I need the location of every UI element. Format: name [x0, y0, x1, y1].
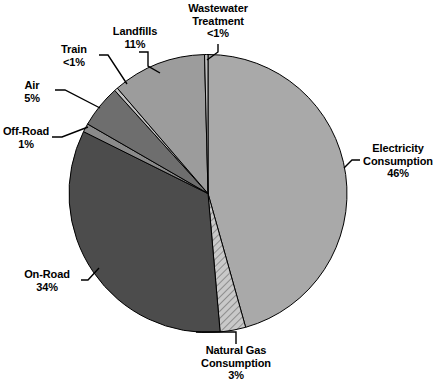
- pie-label-natural-gas-consumption-name2: Consumption: [186, 357, 286, 370]
- pie-label-off-road: Off-Road 1%: [0, 125, 52, 150]
- leader-line-natural-gas-consumption: [196, 332, 236, 344]
- pie-chart-figure: Wastewater Treatment <1% Landfills 11% T…: [0, 0, 439, 384]
- pie-label-air-name: Air: [10, 79, 54, 92]
- pie-label-landfills: Landfills 11%: [95, 25, 175, 50]
- pie-label-off-road-name: Off-Road: [0, 125, 52, 138]
- pie-label-electricity-consumption-name2: Consumption: [357, 155, 439, 168]
- pie-label-electricity-consumption: Electricity Consumption 46%: [357, 142, 439, 180]
- pie-label-train: Train <1%: [50, 43, 98, 68]
- pie-label-on-road-name: On-Road: [14, 268, 80, 281]
- pie-label-electricity-consumption-value: 46%: [357, 167, 439, 180]
- pie-label-air: Air 5%: [10, 79, 54, 104]
- pie-label-wastewater-treatment-name: Wastewater: [168, 2, 268, 15]
- pie-label-wastewater-treatment: Wastewater Treatment <1%: [168, 2, 268, 40]
- pie-label-natural-gas-consumption-value: 3%: [186, 369, 286, 382]
- pie-label-electricity-consumption-name: Electricity: [357, 142, 439, 155]
- pie-label-wastewater-treatment-value: <1%: [168, 27, 268, 40]
- pie-label-on-road-value: 34%: [14, 281, 80, 294]
- pie-label-train-name: Train: [50, 43, 98, 56]
- leader-line-air: [55, 90, 100, 108]
- pie-label-on-road: On-Road 34%: [14, 268, 80, 293]
- pie-label-landfills-name: Landfills: [95, 25, 175, 38]
- pie-label-natural-gas-consumption: Natural Gas Consumption 3%: [186, 344, 286, 382]
- pie-slices-group: [69, 54, 347, 332]
- pie-label-natural-gas-consumption-name: Natural Gas: [186, 344, 286, 357]
- pie-label-train-value: <1%: [50, 56, 98, 69]
- leader-line-train: [99, 55, 127, 84]
- pie-label-wastewater-treatment-name2: Treatment: [168, 15, 268, 28]
- pie-label-air-value: 5%: [10, 92, 54, 105]
- pie-label-off-road-value: 1%: [0, 138, 52, 151]
- pie-label-landfills-value: 11%: [95, 38, 175, 51]
